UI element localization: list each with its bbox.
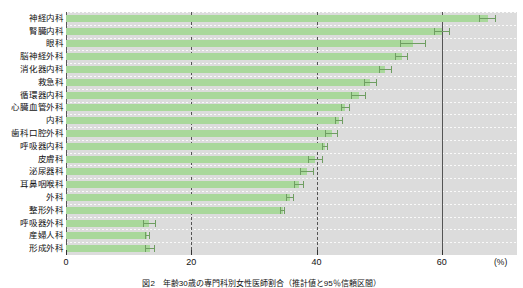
y-axis-label: 神経内科 [0,14,64,23]
error-bar-cap-low [294,181,295,188]
error-bar-cap-low [145,245,146,252]
bar [66,220,149,227]
bar [66,117,339,124]
row-separator [66,127,517,128]
y-axis-label: 呼吸器内科 [0,142,64,151]
error-bar-cap-high [349,104,350,111]
error-bar-cap-low [308,156,309,163]
bar-row [66,181,517,188]
bar-row [66,92,517,99]
bar-row [66,117,517,124]
error-bar-cap-high [407,53,408,60]
row-separator [66,89,517,90]
y-axis-label: 循環器内科 [0,91,64,100]
error-bar-cap-high [303,181,304,188]
bar-row [66,143,517,150]
bar [66,28,442,35]
error-bar-cap-high [154,245,155,252]
error-bar-line [325,133,339,134]
bar-row [66,53,517,60]
error-bar-cap-low [300,168,301,175]
error-bar [300,168,314,175]
error-bar [434,28,450,35]
error-bar [364,79,378,86]
x-axis-tick-label: 40 [312,257,322,267]
error-bar [400,40,425,47]
y-axis-label: 形成外科 [0,244,64,253]
error-bar [280,207,285,214]
bar-row [66,220,517,227]
plot-area [66,12,517,255]
error-bar-cap-high [149,232,150,239]
x-axis-unit-label: (%) [494,257,507,267]
error-bar-cap-low [479,15,480,22]
error-bar-cap-high [155,220,156,227]
row-separator [66,50,517,51]
error-bar-cap-low [351,92,352,99]
row-separator [66,12,517,13]
error-bar-cap-low [364,79,365,86]
row-separator [66,178,517,179]
bar-row [66,232,517,239]
y-axis-label: 消化器内科 [0,65,64,74]
error-bar-cap-high [495,15,496,22]
bar-row [66,130,517,137]
y-axis-label: 救急科 [0,78,64,87]
y-axis-label: 泌尿器科 [0,167,64,176]
y-axis-label: 歯科口腔外科 [0,129,64,138]
bar [66,79,370,86]
bar [66,53,402,60]
bar [66,245,150,252]
error-bar-cap-high [342,117,343,124]
error-bar [322,143,328,150]
error-bar-cap-low [286,194,287,201]
error-bar [379,66,393,73]
x-axis-tick-mark [191,250,192,255]
error-bar-cap-high [365,92,366,99]
row-separator [66,229,517,230]
y-axis-label: 眼科 [0,39,64,48]
row-separator [66,153,517,154]
y-axis-label: 外科 [0,193,64,202]
y-axis-label: 脳神経外科 [0,52,64,61]
bar [66,143,325,150]
bar-row [66,79,517,86]
bar [66,40,413,47]
error-bar-line [400,43,425,44]
bar-row [66,245,517,252]
error-bar [335,117,344,124]
bar-row [66,15,517,22]
y-axis-label-group: 神経内科腎臓内科眼科脳神経外科消化器内科救急科循環器内科心臓血管外科内科歯科口腔… [0,12,64,255]
bar-row [66,168,517,175]
error-bar [145,232,150,239]
bar [66,92,359,99]
error-bar-cap-low [325,130,326,137]
bar-row [66,104,517,111]
bar-row [66,66,517,73]
error-bar-cap-high [284,207,285,214]
error-bar-cap-low [335,117,336,124]
x-axis-tick-label: 20 [186,257,196,267]
error-bar [308,156,323,163]
bar [66,181,299,188]
error-bar-cap-low [143,220,144,227]
bar-row [66,40,517,47]
y-axis-label: 腎臓内科 [0,27,64,36]
bar [66,194,290,201]
y-axis-label: 呼吸器外科 [0,219,64,228]
error-bar [341,104,350,111]
bar-row [66,28,517,35]
row-separator [66,217,517,218]
row-separator [66,76,517,77]
row-separator [66,114,517,115]
x-axis-tick-label: 0 [63,257,68,267]
row-separator [66,140,517,141]
error-bar-line [479,18,495,19]
error-bar-cap-low [341,104,342,111]
row-separator [66,191,517,192]
error-bar [479,15,495,22]
bar [66,66,385,73]
bar-row [66,207,517,214]
row-separator [66,204,517,205]
